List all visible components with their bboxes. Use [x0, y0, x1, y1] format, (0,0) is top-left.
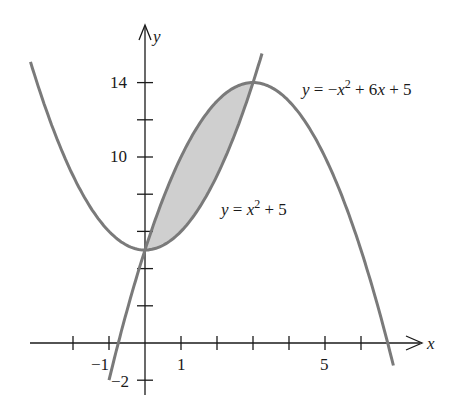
upper-curve-label: y = −x2 + 6x + 5 — [300, 77, 412, 99]
shaded-region — [145, 83, 253, 250]
x-axis — [30, 336, 422, 350]
lower-curve-label: y = x2 + 5 — [219, 197, 287, 219]
y-axis-label: y — [151, 27, 161, 46]
y-tick-label-10: 10 — [110, 147, 127, 166]
x-tick-label-5: 5 — [320, 355, 329, 374]
x-axis-label: x — [426, 334, 435, 353]
curve-neg-x-squared-plus-6x-plus-5 — [109, 83, 393, 381]
y-axis — [137, 25, 153, 395]
x-tick-label-1: 1 — [177, 355, 186, 374]
x-tick-label-neg1: −1 — [91, 355, 109, 374]
y-tick-label-neg2: −2 — [111, 372, 129, 391]
y-tick-label-14: 14 — [110, 73, 128, 92]
graph-figure: y x 14 10 −2 −1 1 5 y = −x2 + 6x + 5 y =… — [0, 0, 460, 414]
